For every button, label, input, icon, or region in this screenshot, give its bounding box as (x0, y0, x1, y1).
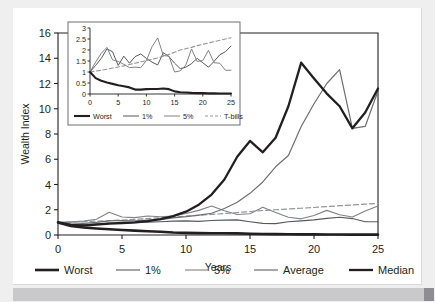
inset-chart: 00.511.522.530510152025Worst1%5%T-bills (68, 22, 243, 125)
legend-label-worst: Worst (64, 264, 93, 276)
inset-x-tick-label: 25 (227, 98, 235, 107)
inset-legend-label-1-: 1% (142, 112, 153, 121)
figure-card: 02468101214160510152025YearsWealth Index… (13, 8, 422, 285)
inset-frame (68, 22, 240, 125)
x-tick-label: 5 (119, 243, 125, 255)
x-tick-label: 0 (55, 243, 61, 255)
inset-y-tick-label: 0.5 (76, 79, 86, 88)
x-tick-label: 10 (180, 243, 192, 255)
inset-legend-label-t-bills: T-bills (224, 112, 243, 121)
inset-x-tick-label: 10 (142, 98, 150, 107)
inset-x-tick-label: 15 (171, 98, 179, 107)
inset-y-tick-label: 1.5 (76, 57, 86, 66)
y-tick-label: 2 (45, 204, 51, 216)
inset-legend-label-worst: Worst (93, 112, 112, 121)
y-tick-label: 8 (45, 128, 51, 140)
y-tick-label: 4 (45, 179, 51, 191)
inset-legend-label-5-: 5% (183, 112, 194, 121)
y-tick-label: 0 (45, 229, 51, 241)
figure-root: 02468101214160510152025YearsWealth Index… (0, 0, 435, 302)
y-tick-label: 10 (39, 103, 51, 115)
legend-label-5-: 5% (214, 264, 230, 276)
inset-y-tick-label: 3 (82, 24, 86, 33)
y-tick-label: 12 (39, 78, 51, 90)
x-tick-label: 25 (372, 243, 384, 255)
wealth-index-chart: 02468101214160510152025YearsWealth Index… (13, 8, 422, 285)
legend-label-average: Average (283, 264, 324, 276)
y-tick-label: 14 (39, 52, 51, 64)
inset-y-tick-label: 0 (82, 90, 86, 99)
inset-y-tick-label: 1 (82, 68, 86, 77)
inset-y-tick-label: 2.5 (76, 35, 86, 44)
inset-x-tick-label: 5 (116, 98, 120, 107)
chart-svg: 02468101214160510152025YearsWealth Index… (13, 8, 422, 285)
main-legend: Worst1%5%AverageMedianT-bills (35, 264, 422, 276)
y-axis-title: Wealth Index (19, 103, 31, 165)
y-tick-label: 6 (45, 153, 51, 165)
legend-label-median: Median (378, 264, 414, 276)
inset-x-tick-label: 0 (88, 98, 92, 107)
x-tick-label: 15 (244, 243, 256, 255)
footer-strip (13, 288, 425, 301)
y-tick-label: 16 (39, 27, 51, 39)
inset-x-tick-label: 20 (199, 98, 207, 107)
footer-corner-tab (424, 288, 434, 301)
x-tick-label: 20 (308, 243, 320, 255)
inset-y-tick-label: 2 (82, 46, 86, 55)
series-t-bills (58, 203, 378, 222)
legend-label-1-: 1% (145, 264, 161, 276)
